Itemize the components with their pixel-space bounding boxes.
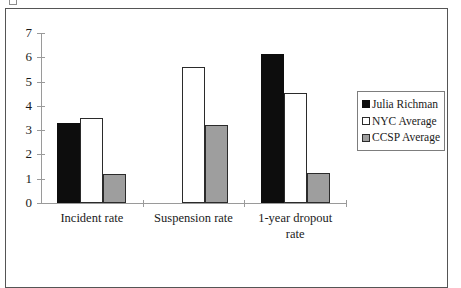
bar (205, 125, 228, 203)
legend-item: NYC Average (362, 113, 440, 130)
y-axis-tick-label: 4 (10, 99, 32, 112)
legend-swatch-icon (362, 134, 370, 142)
x-axis-tick (346, 200, 347, 207)
x-axis-tick (244, 200, 245, 207)
legend-item: CCSP Average (362, 129, 440, 146)
bar (57, 123, 80, 203)
x-axis-tick (143, 200, 144, 207)
y-axis-tick-label: 7 (10, 26, 32, 39)
category-label: Suspension rate (143, 211, 245, 227)
y-axis-tick (37, 82, 45, 83)
bar (307, 173, 330, 203)
legend-item-label: NYC Average (372, 113, 437, 130)
bar (80, 118, 103, 203)
y-axis-tick-label: 1 (10, 172, 32, 185)
y-axis-tick (37, 57, 45, 58)
bar (103, 174, 126, 203)
bar (261, 54, 284, 203)
y-axis-tick-label: 0 (10, 196, 32, 209)
category-label: Incident rate (41, 211, 143, 227)
bar (182, 67, 205, 203)
legend-swatch-icon (362, 117, 370, 125)
legend-swatch-icon (362, 100, 370, 108)
legend-item-label: CCSP Average (372, 129, 440, 146)
y-axis-tick (37, 33, 45, 34)
category-label-line: Incident rate (41, 211, 143, 227)
y-axis-tick (37, 106, 45, 107)
y-axis-tick (37, 130, 45, 131)
chart-legend: Julia RichmanNYC AverageCCSP Average (357, 91, 445, 151)
y-axis-tick-label: 2 (10, 147, 32, 160)
bar (284, 93, 307, 204)
category-label-line: rate (244, 227, 346, 243)
y-axis-tick (37, 154, 45, 155)
legend-item-label: Julia Richman (372, 96, 438, 113)
category-label: 1-year dropoutrate (244, 211, 346, 242)
y-axis-tick (37, 203, 45, 204)
y-axis-tick (37, 179, 45, 180)
y-axis-tick-label: 6 (10, 50, 32, 63)
legend-item: Julia Richman (362, 96, 440, 113)
category-label-line: Suspension rate (143, 211, 245, 227)
y-axis-tick-label: 3 (10, 123, 32, 136)
x-axis-line (41, 203, 346, 204)
y-axis-tick-label: 5 (10, 75, 32, 88)
category-label-line: 1-year dropout (244, 211, 346, 227)
